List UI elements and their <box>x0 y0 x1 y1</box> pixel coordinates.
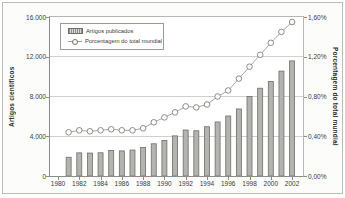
legend-label-bars: Artigos publicados <box>86 28 133 34</box>
legend: Artigos publicados Porcentagem do total … <box>60 23 164 50</box>
percent-marker-1983 <box>87 129 93 135</box>
bar-1989 <box>151 144 156 176</box>
bar-2002 <box>290 61 295 176</box>
x-axis-tick-mark <box>164 177 165 180</box>
bar-1996 <box>226 116 231 176</box>
percent-marker-1998 <box>247 64 253 70</box>
left-axis-tick-mark <box>46 176 49 177</box>
bar-1983 <box>87 153 92 176</box>
percent-marker-1996 <box>225 88 231 94</box>
percent-marker-2001 <box>279 29 285 35</box>
legend-label-line: Porcentagem do total mundial <box>85 38 162 44</box>
right-axis-tick-label: 0,00% <box>308 173 338 180</box>
bar-1995 <box>215 122 220 176</box>
figure-frame: Artigos científicos Porcentagem do total… <box>2 2 343 194</box>
right-axis-tick-mark <box>304 17 307 18</box>
x-axis-tick-mark <box>79 177 80 180</box>
left-axis-tick-label: 12.000 <box>16 53 46 60</box>
left-axis-tick-mark <box>46 136 49 137</box>
x-axis-tick-mark <box>58 177 59 180</box>
percent-marker-1988 <box>140 126 146 132</box>
line-marker-icon <box>68 38 82 45</box>
x-axis-tick-mark <box>186 177 187 180</box>
bar-1998 <box>247 96 252 176</box>
percent-marker-2000 <box>268 40 274 46</box>
left-axis-tick-label: 0 <box>16 173 46 180</box>
x-axis-tick-mark <box>101 177 102 180</box>
left-axis-tick-label: 4.000 <box>16 133 46 140</box>
percent-marker-1995 <box>215 94 221 100</box>
x-axis-tick-label: 2002 <box>280 180 304 187</box>
bar-2000 <box>268 81 273 176</box>
percent-marker-1986 <box>119 128 125 134</box>
x-axis-tick-mark <box>228 177 229 180</box>
bar-1990 <box>162 141 167 176</box>
percent-marker-1999 <box>257 52 263 58</box>
percent-marker-1987 <box>130 128 136 134</box>
x-axis-tick-mark <box>250 177 251 180</box>
percent-marker-1991 <box>172 110 178 116</box>
percent-marker-1981 <box>66 130 72 136</box>
left-axis-tick-label: 16.000 <box>16 14 46 21</box>
bar-swatch-icon <box>68 28 83 34</box>
right-axis-tick-mark <box>304 97 307 98</box>
right-axis-tick-label: 0,40% <box>308 133 338 140</box>
percent-marker-2002 <box>289 19 295 25</box>
bar-1988 <box>141 148 146 176</box>
x-axis-tick-mark <box>292 177 293 180</box>
right-axis-tick-mark <box>304 176 307 177</box>
percent-marker-1984 <box>98 128 104 134</box>
legend-item-bars: Artigos publicados <box>68 28 163 34</box>
left-axis-tick-label: 8.000 <box>16 93 46 100</box>
left-axis-title: Artigos científicos <box>6 17 16 176</box>
right-axis-tick-label: 1,20% <box>308 53 338 60</box>
bar-2001 <box>279 71 284 176</box>
bar-1984 <box>98 153 103 176</box>
bar-1982 <box>77 153 82 176</box>
percent-marker-1992 <box>183 104 189 110</box>
percent-marker-1990 <box>162 115 168 121</box>
left-axis-tick-mark <box>46 57 49 58</box>
bar-1997 <box>236 109 241 176</box>
right-axis-tick-label: 1,60% <box>308 14 338 21</box>
right-axis-tick-label: 0,80% <box>308 93 338 100</box>
x-axis-tick-mark <box>271 177 272 180</box>
legend-item-line: Porcentagem do total mundial <box>68 38 163 45</box>
percent-marker-1982 <box>77 128 83 134</box>
percent-marker-1989 <box>151 120 157 126</box>
bar-1999 <box>258 88 263 176</box>
bar-1991 <box>173 136 178 176</box>
percent-marker-1997 <box>236 76 242 82</box>
left-axis-tick-mark <box>46 17 49 18</box>
x-axis-tick-mark <box>207 177 208 180</box>
bar-1987 <box>130 150 135 176</box>
right-axis-tick-mark <box>304 57 307 58</box>
percent-marker-1993 <box>194 105 200 111</box>
bar-1994 <box>204 127 209 176</box>
bar-1993 <box>194 131 199 176</box>
bar-1985 <box>109 150 114 176</box>
left-axis-tick-mark <box>46 97 49 98</box>
percent-marker-1994 <box>204 102 210 108</box>
right-axis-tick-mark <box>304 136 307 137</box>
bar-1992 <box>183 130 188 176</box>
bar-1981 <box>66 157 71 176</box>
percent-marker-1985 <box>108 127 114 133</box>
x-axis-tick-mark <box>143 177 144 180</box>
x-axis-tick-mark <box>122 177 123 180</box>
bar-1986 <box>119 151 124 176</box>
